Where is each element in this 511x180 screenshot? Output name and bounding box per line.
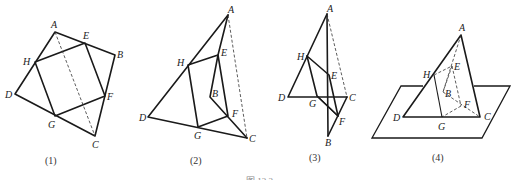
figure-caption: 图 12.2 bbox=[246, 176, 273, 180]
figure-1: A E B H D F G C (1) bbox=[4, 19, 123, 167]
label-d: D bbox=[392, 112, 401, 123]
label-f: F bbox=[338, 116, 346, 127]
label-f: F bbox=[231, 108, 239, 119]
edges-a-e-b-c bbox=[210, 15, 247, 138]
label-h: H bbox=[22, 56, 31, 67]
label-c: C bbox=[92, 139, 99, 150]
label-d: D bbox=[138, 112, 147, 123]
edge-hg bbox=[434, 75, 442, 117]
figure-4: A E H B F D G C (4) bbox=[372, 22, 510, 164]
label-b: B bbox=[445, 88, 451, 99]
diagonal-ac bbox=[327, 14, 347, 97]
figure-3: A H E D G C F B (3) bbox=[277, 3, 356, 164]
label-f: F bbox=[106, 91, 114, 102]
label-c: C bbox=[349, 92, 356, 103]
label-a: A bbox=[326, 3, 334, 14]
label-a: A bbox=[50, 19, 58, 30]
edge-ef bbox=[452, 66, 461, 106]
label-h: H bbox=[296, 51, 305, 62]
label-h: H bbox=[176, 57, 185, 68]
label-e: E bbox=[453, 61, 460, 72]
label-a: A bbox=[458, 22, 466, 33]
label-e: E bbox=[330, 70, 337, 81]
quad-efgh bbox=[188, 55, 228, 127]
figure-2: A E H B D F G C (2) bbox=[138, 4, 256, 167]
label-g: G bbox=[194, 130, 201, 141]
quad-efgh bbox=[35, 43, 105, 116]
edge-fg bbox=[442, 106, 461, 117]
label-g: G bbox=[438, 121, 445, 132]
label-d: D bbox=[277, 92, 286, 103]
label-a: A bbox=[227, 4, 235, 15]
diagram-canvas: A E B H D F G C (1) A E H B D F G C (2) … bbox=[0, 0, 511, 180]
label-c: C bbox=[249, 133, 256, 144]
label-d: D bbox=[4, 89, 13, 100]
label-b: B bbox=[325, 137, 331, 148]
label-f: F bbox=[463, 99, 471, 110]
caption-4: (4) bbox=[432, 152, 444, 164]
caption-2: (2) bbox=[190, 155, 202, 167]
caption-1: (1) bbox=[45, 155, 57, 167]
label-g: G bbox=[48, 119, 55, 130]
label-c: C bbox=[484, 111, 491, 122]
label-g: G bbox=[309, 98, 316, 109]
caption-3: (3) bbox=[309, 152, 321, 164]
label-b: B bbox=[117, 49, 123, 60]
label-h: H bbox=[422, 69, 431, 80]
label-b: B bbox=[212, 88, 218, 99]
label-e: E bbox=[220, 47, 227, 58]
label-e: E bbox=[82, 30, 89, 41]
